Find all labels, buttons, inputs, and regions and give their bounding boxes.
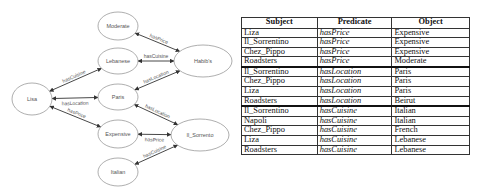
- node-moderate: Moderate: [98, 12, 138, 40]
- subject-cell: Liza: [242, 87, 318, 97]
- node-label: Lebanese: [106, 58, 130, 64]
- object-cell: Paris: [392, 67, 470, 77]
- edge-paris-habibs: hasLocation: [135, 69, 180, 90]
- predicate-cell: hasPrice: [317, 57, 392, 67]
- node-label: Paris: [112, 94, 125, 100]
- subject-cell: Roadsters: [242, 57, 318, 67]
- object-cell: Beirut: [392, 96, 470, 106]
- node-expensive: Expensive: [98, 120, 138, 148]
- table-row: LizahasCuisineLebanese: [242, 136, 470, 146]
- rdf-graph-diagram: hasPricehasCuisinehasLocationhasCuisineh…: [0, 0, 240, 193]
- edge-lisa-lebanese: hasCuisine: [50, 68, 102, 91]
- predicate-cell: hasCuisine: [317, 106, 392, 116]
- edge-moderate-habibs: hasPrice: [135, 32, 180, 51]
- object-cell: Lebanese: [392, 136, 470, 146]
- node-paris: Paris: [98, 84, 138, 110]
- predicate-cell: hasPrice: [317, 38, 392, 48]
- node-il_sorrento: Il_Sorrento: [171, 119, 229, 151]
- table-row: Il_SorrentinohasCuisineItalian: [242, 106, 470, 116]
- header-object: Object: [392, 18, 470, 29]
- header-subject: Subject: [242, 18, 318, 29]
- edge-lisa-paris: hasLocation: [52, 97, 98, 106]
- object-cell: Expensive: [392, 38, 470, 48]
- table-row: Il_SorrentinohasPriceExpensive: [242, 38, 470, 48]
- object-cell: Moderate: [392, 57, 470, 67]
- subject-cell: Il_Sorrentino: [242, 106, 318, 116]
- edge-label: hasPrice: [145, 136, 165, 142]
- table-row: Il_SorrentinohasLocationParis: [242, 67, 470, 77]
- predicate-cell: hasCuisine: [317, 145, 392, 155]
- subject-cell: Roadsters: [242, 145, 318, 155]
- subject-cell: Il_Sorrentino: [242, 67, 318, 77]
- double-arrow-icon: [52, 97, 98, 98]
- predicate-cell: hasLocation: [317, 67, 392, 77]
- node-label: Moderate: [106, 23, 129, 29]
- object-cell: Lebanese: [392, 145, 470, 155]
- edge-expensive-il_sorrento: hasPrice: [138, 134, 171, 142]
- subject-cell: Liza: [242, 136, 318, 146]
- header-predicate: Predicate: [317, 18, 392, 29]
- subject-cell: Roadsters: [242, 96, 318, 106]
- node-lebanese: Lebanese: [98, 48, 138, 74]
- table-row: RoadstershasLocationBeirut: [242, 96, 470, 106]
- predicate-cell: hasCuisine: [317, 136, 392, 146]
- object-cell: Italian: [392, 106, 470, 116]
- rdf-triples-table: Subject Predicate Object LizahasPriceExp…: [241, 17, 470, 155]
- subject-cell: Il_Sorrentino: [242, 38, 318, 48]
- node-italian: Italian: [98, 158, 138, 186]
- edge-lebanese-habibs: hasCuisine: [138, 53, 174, 61]
- node-label: Il_Sorrento: [187, 132, 214, 138]
- edge-paris-il_sorrento: hasLocation: [134, 103, 178, 125]
- edge-label: hasLocation: [62, 100, 89, 107]
- table-header-row: Subject Predicate Object: [242, 18, 470, 29]
- edge-label: hasCuisine: [144, 53, 169, 59]
- node-habibs: Habib's: [174, 45, 232, 77]
- predicate-cell: hasLocation: [317, 96, 392, 106]
- node-label: Italian: [111, 169, 126, 175]
- edge-italian-il_sorrento: hasCuisine: [135, 143, 178, 164]
- object-cell: Paris: [392, 87, 470, 97]
- table-row: RoadstershasCuisineLebanese: [242, 145, 470, 155]
- node-label: Habib's: [194, 58, 212, 64]
- table-row: RoadstershasPriceModerate: [242, 57, 470, 67]
- predicate-cell: hasLocation: [317, 87, 392, 97]
- node-label: Lisa: [27, 96, 38, 102]
- edge-lisa-expensive: hasPrice: [50, 106, 101, 127]
- table-row: LizahasLocationParis: [242, 87, 470, 97]
- node-lisa: Lisa: [12, 83, 52, 115]
- nodes: ModerateLebaneseHabib'sLisaParisExpensiv…: [12, 12, 232, 186]
- node-label: Expensive: [105, 131, 130, 137]
